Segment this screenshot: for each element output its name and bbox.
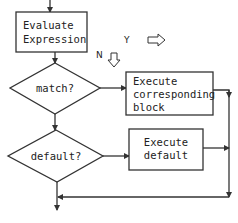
execute-block-line-2: corresponding bbox=[133, 88, 215, 100]
down-hollow-arrow-icon bbox=[108, 53, 120, 67]
execute-block-line-1: Execute bbox=[133, 75, 177, 87]
match-decision-node: match? bbox=[10, 63, 100, 114]
right-hollow-arrow-icon bbox=[148, 34, 165, 46]
execute-block-line-3: block bbox=[133, 101, 165, 113]
evaluate-line-1: Evaluate bbox=[23, 19, 74, 31]
evaluate-expression-node: Evaluate Expression bbox=[16, 12, 87, 52]
flowchart: Evaluate Expression Y N match? Execute c… bbox=[0, 0, 238, 223]
no-label: N bbox=[96, 50, 103, 60]
evaluate-line-2: Expression bbox=[23, 33, 86, 45]
yes-label: Y bbox=[123, 35, 130, 45]
execute-block-node: Execute corresponding block bbox=[126, 72, 215, 115]
match-label: match? bbox=[36, 82, 74, 94]
execute-default-line-2: default bbox=[144, 149, 188, 161]
execute-default-line-1: Execute bbox=[144, 136, 188, 148]
execute-block-exit-arrow bbox=[213, 90, 229, 97]
execute-default-node: Execute default bbox=[129, 129, 203, 170]
default-label: default? bbox=[31, 150, 82, 162]
default-decision-node: default? bbox=[8, 130, 103, 182]
